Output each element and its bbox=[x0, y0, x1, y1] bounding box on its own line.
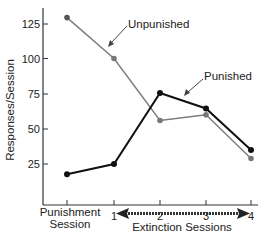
x-tick-1: 1 bbox=[111, 210, 117, 222]
y-tick-75: 75 bbox=[28, 88, 40, 100]
label-extinction: Extinction Sessions bbox=[132, 221, 232, 233]
x-ticks bbox=[67, 200, 251, 205]
label-session: Session bbox=[50, 218, 91, 230]
y-axis-label: Responses/Session bbox=[4, 59, 16, 161]
label-punishment: Punishment bbox=[40, 206, 102, 218]
arrow-punished-icon bbox=[184, 79, 203, 96]
annotation-punished: Punished bbox=[204, 70, 252, 82]
y-tick-125: 125 bbox=[22, 18, 40, 30]
annotation-unpunished: Unpunished bbox=[128, 18, 189, 30]
arrow-unpunished-icon bbox=[108, 26, 127, 47]
double-arrow-icon bbox=[116, 208, 250, 219]
series-unpunished bbox=[64, 15, 254, 162]
y-tick-25: 25 bbox=[28, 158, 40, 170]
y-ticks bbox=[43, 24, 48, 164]
y-tick-50: 50 bbox=[28, 123, 40, 135]
y-tick-labels: 125 100 75 50 25 bbox=[22, 18, 40, 170]
chart: 125 100 75 50 25 Responses/Session 1 2 3… bbox=[0, 0, 267, 237]
x-tick-4: 4 bbox=[248, 210, 254, 222]
y-tick-100: 100 bbox=[22, 53, 40, 65]
